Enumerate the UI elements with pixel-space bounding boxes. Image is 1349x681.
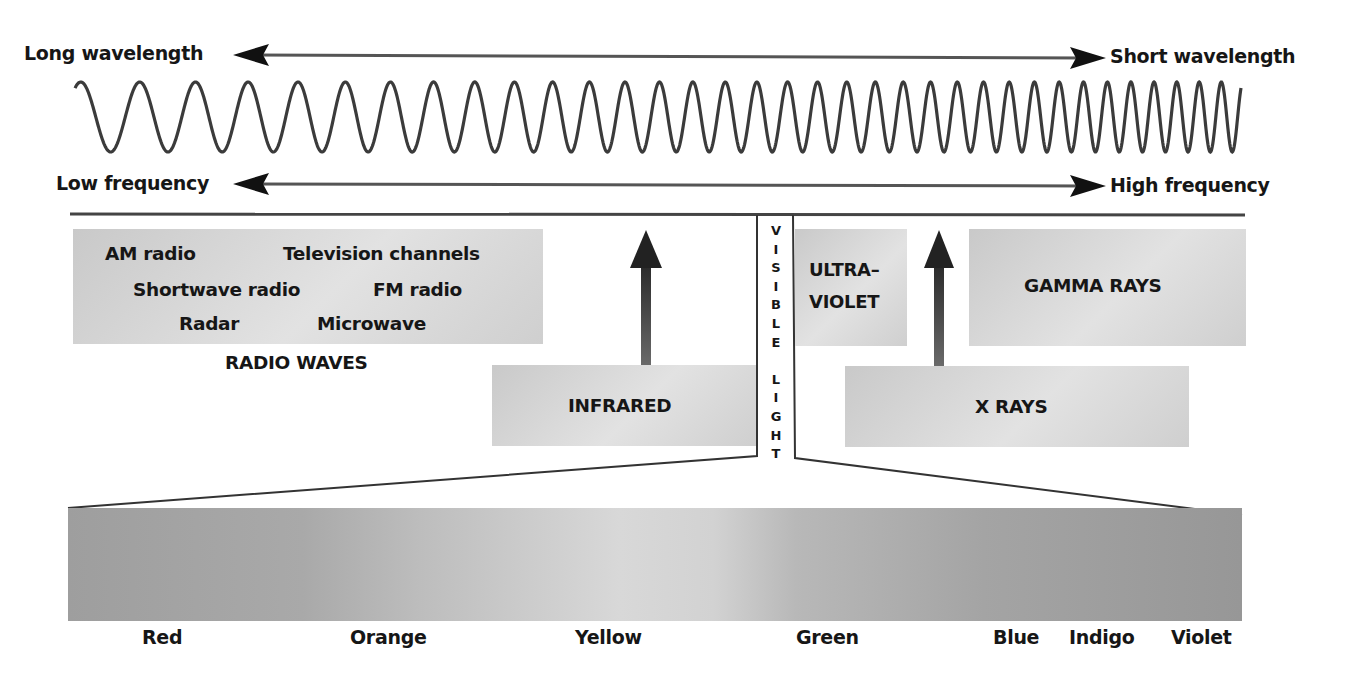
color-label-orange: Orange (350, 626, 427, 648)
color-label-yellow: Yellow (575, 626, 642, 648)
television-channels-label: Television channels (283, 243, 480, 264)
x-rays-box: X RAYS (845, 366, 1189, 447)
shortwave-radio-label: Shortwave radio (133, 279, 300, 300)
color-label-green: Green (796, 626, 859, 648)
visible-letter: L (772, 371, 780, 390)
visible-letter: L (772, 315, 780, 334)
ultraviolet-line2: VIOLET (809, 291, 879, 312)
radio-waves-box: AM radio Television channels Shortwave r… (73, 229, 543, 344)
color-label-indigo: Indigo (1069, 626, 1135, 648)
color-label-red: Red (142, 626, 182, 648)
x-rays-label: X RAYS (975, 396, 1047, 417)
radar-label: Radar (179, 313, 239, 334)
color-label-blue: Blue (993, 626, 1039, 648)
visible-letter: E (772, 334, 781, 353)
infrared-label: INFRARED (568, 395, 671, 416)
gamma-rays-box: GAMMA RAYS (969, 229, 1246, 346)
visible-letter: H (771, 427, 782, 446)
visible-letter: T (772, 445, 781, 464)
radio-waves-title: RADIO WAVES (225, 352, 368, 373)
visible-letter: I (774, 278, 779, 297)
visible-light-label: V I S I B L E L I G H T (763, 222, 789, 464)
short-wavelength-label: Short wavelength (1110, 45, 1295, 67)
visible-letter: I (774, 241, 779, 260)
visible-spectrum-bar (68, 508, 1242, 621)
infrared-box: INFRARED (492, 365, 756, 446)
visible-letter: G (771, 408, 782, 427)
wave-line (75, 82, 1241, 152)
color-label-violet: Violet (1171, 626, 1232, 648)
gamma-rays-label: GAMMA RAYS (1024, 275, 1162, 296)
frequency-arrow (233, 173, 1106, 197)
visible-letter: B (771, 296, 781, 315)
divider-line (70, 214, 1245, 215)
wavelength-arrow (233, 44, 1106, 69)
low-frequency-label: Low frequency (56, 172, 209, 194)
am-radio-label: AM radio (105, 243, 196, 264)
high-frequency-label: High frequency (1110, 174, 1270, 196)
ultraviolet-box: ULTRA– VIOLET (795, 229, 907, 346)
visible-letter: S (771, 259, 780, 278)
fm-radio-label: FM radio (373, 279, 462, 300)
arrow-up-icon (630, 230, 662, 366)
arrow-up-icon (924, 230, 954, 366)
visible-letter: I (774, 389, 779, 408)
microwave-label: Microwave (317, 313, 426, 334)
ultraviolet-line1: ULTRA– (809, 259, 879, 280)
long-wavelength-label: Long wavelength (24, 42, 203, 64)
visible-letter: V (771, 222, 781, 241)
